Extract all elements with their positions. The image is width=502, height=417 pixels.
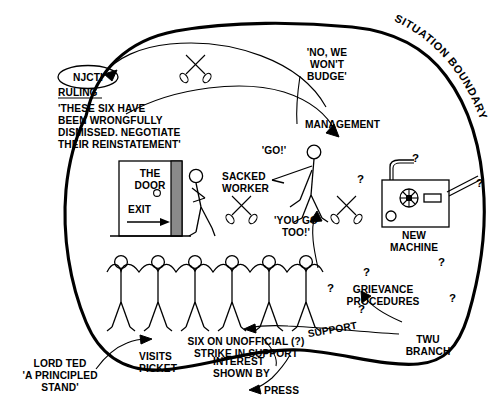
question-mark-grievance-bottom: ? bbox=[358, 303, 365, 315]
rich-picture-canvas: SITUATION BOUNDARY bbox=[0, 0, 502, 417]
arrowhead-press bbox=[249, 385, 261, 394]
door-shaded-edge bbox=[171, 161, 182, 236]
go-label: 'GO!' bbox=[262, 145, 287, 156]
visits-line-2: PICKET bbox=[139, 363, 178, 374]
question-mark-machine-top: ? bbox=[412, 152, 419, 164]
situation-diagram: SITUATION BOUNDARY bbox=[0, 0, 502, 417]
njcti-label: NJCTI bbox=[73, 72, 103, 83]
arrowhead-visits-picket bbox=[140, 335, 152, 344]
picket-line-figures bbox=[107, 256, 323, 331]
new-machine-line-1: NEW bbox=[402, 230, 426, 241]
no-budge-line-3: BUDGE' bbox=[307, 71, 347, 82]
exit-arrow-head bbox=[160, 218, 170, 226]
crossed-tools-icon-top bbox=[178, 55, 212, 84]
arrowhead-support bbox=[244, 324, 256, 333]
ruling-quote-line-1: 'THESE SIX HAVE bbox=[58, 103, 146, 114]
question-mark-machine-below: ? bbox=[438, 256, 445, 268]
leader-no-budge-to-management bbox=[297, 76, 300, 124]
no-budge-line-1: 'NO, WE bbox=[307, 47, 348, 58]
lord-ted-line-2: 'A PRINCIPLED bbox=[22, 370, 97, 381]
crossed-tools-icon-right bbox=[329, 196, 363, 225]
door-label-line-1: THE bbox=[140, 168, 161, 179]
twu-line-1: TWU bbox=[416, 334, 440, 345]
ruling-heading: RULING bbox=[58, 87, 98, 98]
situation-boundary-label: SITUATION BOUNDARY bbox=[393, 12, 490, 121]
question-mark-machine-left: ? bbox=[357, 173, 364, 185]
question-mark-grievance-left: ? bbox=[327, 282, 334, 294]
twu-line-2: BRANCH bbox=[406, 346, 451, 357]
exit-label: EXIT bbox=[128, 204, 152, 215]
visits-line-1: VISITS bbox=[139, 351, 172, 362]
interest-line-1: INTEREST bbox=[213, 356, 265, 367]
ruling-quote-line-4: THEIR REINSTATEMENT' bbox=[58, 139, 181, 150]
lord-ted-line-3: STAND' bbox=[41, 382, 78, 393]
new-machine-line-2: MACHINE bbox=[390, 242, 438, 253]
grievance-line-1: GRIEVANCE bbox=[353, 284, 414, 295]
interest-line-2: SHOWN BY bbox=[213, 368, 270, 379]
you-go-too-line-2: TOO!' bbox=[282, 227, 310, 238]
question-mark-grievance-top: ? bbox=[363, 266, 370, 278]
press-label: PRESS bbox=[264, 385, 299, 396]
door-label-line-2: DOOR bbox=[135, 180, 167, 191]
crossed-tools-icon-middle bbox=[224, 196, 258, 225]
arc-to-njcti bbox=[104, 43, 326, 107]
ruling-quote-line-2: BEEN WRONGFULLY bbox=[58, 115, 163, 126]
you-go-too-line-1: 'YOU GO bbox=[274, 215, 318, 226]
sacked-worker-line-2: WORKER bbox=[222, 183, 270, 194]
ruling-quote-line-3: DISMISSED. NEGOTIATE bbox=[58, 127, 180, 138]
question-mark-machine-right: ? bbox=[476, 177, 483, 189]
sacked-worker-line-1: SACKED bbox=[222, 171, 266, 182]
support-label: SUPPORT bbox=[307, 320, 359, 340]
management-label: MANAGEMENT bbox=[305, 119, 381, 130]
new-machine-icon bbox=[382, 160, 480, 227]
question-mark-grievance-right: ? bbox=[449, 292, 456, 304]
sacked-worker-figure bbox=[189, 169, 215, 236]
no-budge-line-2: WON'T bbox=[310, 59, 345, 70]
management-figure bbox=[272, 145, 328, 222]
strike-line-1: SIX ON UNOFFICIAL (?) bbox=[188, 336, 305, 347]
lord-ted-line-1: LORD TED bbox=[34, 358, 87, 369]
